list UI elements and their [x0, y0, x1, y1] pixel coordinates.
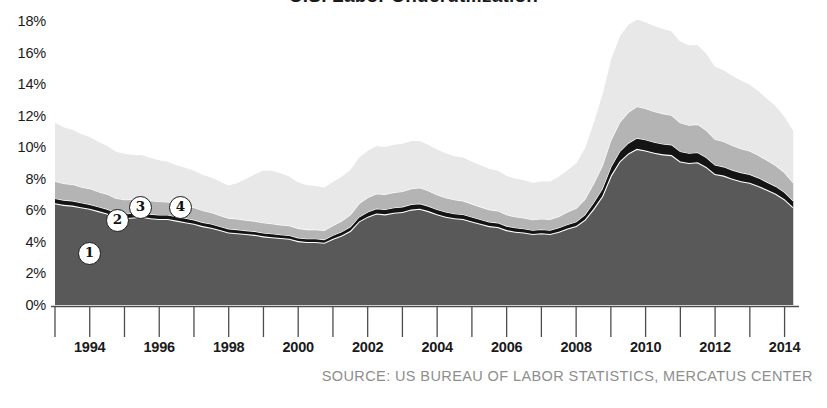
y-axis-label-0: 0%	[0, 298, 46, 312]
x-axis-label-2014: 2014	[755, 340, 815, 355]
x-axis-label-2012: 2012	[685, 340, 745, 355]
callout-marker-4: 4	[169, 196, 192, 219]
callout-marker-1: 1	[78, 242, 101, 265]
area-series-group	[55, 19, 793, 305]
x-axis-label-1998: 1998	[199, 340, 259, 355]
y-axis-label-12: 12%	[0, 109, 46, 123]
x-axis-label-2004: 2004	[407, 340, 467, 355]
x-axis-label-2002: 2002	[338, 340, 398, 355]
x-axis-label-1994: 1994	[60, 340, 120, 355]
y-axis-label-4: 4%	[0, 235, 46, 249]
y-axis-label-18: 18%	[0, 14, 46, 28]
x-axis-label-2000: 2000	[268, 340, 328, 355]
chart-root: U.S. Labor Underutilization 18%16%14%12%…	[0, 0, 827, 408]
axis-group	[51, 307, 799, 338]
source-note: SOURCE: US BUREAU OF LABOR STATISTICS, M…	[0, 368, 813, 384]
x-axis-label-1996: 1996	[129, 340, 189, 355]
callout-marker-2: 2	[106, 209, 129, 232]
x-axis-label-2008: 2008	[546, 340, 606, 355]
y-axis-label-16: 16%	[0, 46, 46, 60]
x-axis-label-2006: 2006	[477, 340, 537, 355]
y-axis-label-2: 2%	[0, 266, 46, 280]
x-axis-label-2010: 2010	[616, 340, 676, 355]
y-axis-label-6: 6%	[0, 203, 46, 217]
y-axis-label-8: 8%	[0, 172, 46, 186]
y-axis-label-10: 10%	[0, 140, 46, 154]
callout-marker-3: 3	[129, 196, 152, 219]
y-axis-label-14: 14%	[0, 77, 46, 91]
